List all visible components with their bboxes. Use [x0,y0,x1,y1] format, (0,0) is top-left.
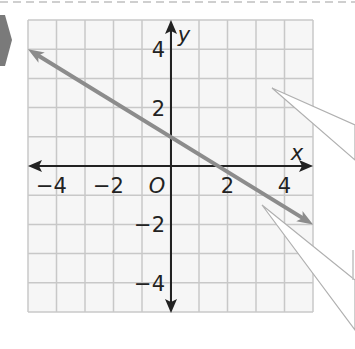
x-tick-label: 2 [221,174,234,198]
x-tick-label: −4 [36,174,67,198]
coordinate-plane-figure: −4−22442−2−4Oxy [0,0,355,349]
hexagon-marker-icon [0,15,12,66]
y-axis-label: y [177,23,191,47]
y-tick-label: −4 [134,272,165,296]
x-tick-label: −2 [93,174,124,198]
origin-label: O [149,174,166,198]
y-tick-label: 4 [152,38,165,62]
x-tick-label: 4 [278,174,291,198]
y-tick-label: −2 [134,213,165,237]
x-axis-label: x [290,141,304,165]
y-tick-label: 2 [152,97,165,121]
